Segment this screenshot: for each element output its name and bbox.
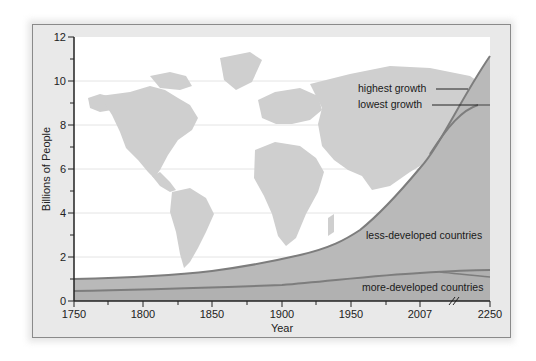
svg-text:0: 0 — [60, 295, 66, 307]
svg-text:1750: 1750 — [62, 308, 86, 320]
svg-text:1950: 1950 — [339, 308, 363, 320]
x-tick-labels: 1750 1800 1850 1900 1950 2007 2250 — [62, 308, 502, 320]
svg-text:4: 4 — [60, 207, 66, 219]
less-developed-label: less-developed countries — [366, 229, 482, 241]
svg-text:2250: 2250 — [478, 308, 502, 320]
x-axis-title: Year — [271, 322, 294, 334]
svg-text:8: 8 — [60, 119, 66, 131]
x-ticks — [74, 301, 490, 307]
svg-text:12: 12 — [54, 31, 66, 43]
svg-text:2: 2 — [60, 251, 66, 263]
chart-svg: highest growth lowest growth less-develo… — [0, 0, 536, 361]
y-axis-title: Billions of People — [40, 127, 52, 211]
more-developed-label: more-developed countries — [362, 281, 483, 293]
y-ticks — [68, 37, 74, 301]
svg-text:1850: 1850 — [200, 308, 224, 320]
svg-text:1900: 1900 — [270, 308, 294, 320]
svg-text:6: 6 — [60, 163, 66, 175]
lowest-growth-label: lowest growth — [358, 98, 422, 110]
highest-growth-label: highest growth — [358, 82, 426, 94]
svg-text:1800: 1800 — [131, 308, 155, 320]
y-tick-labels: 0 2 4 6 8 10 12 — [54, 31, 66, 307]
svg-text:2007: 2007 — [408, 308, 432, 320]
svg-text:10: 10 — [54, 75, 66, 87]
